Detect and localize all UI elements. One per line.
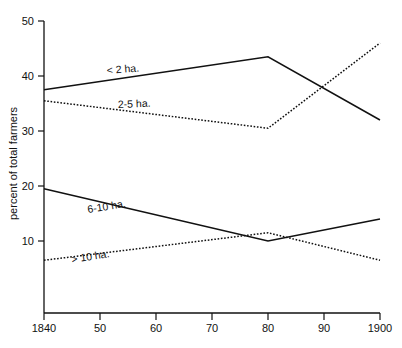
x-axis-tick-labels: 1840 50 60 70 80 90 1900 bbox=[32, 322, 392, 334]
y-tick-label-20: 20 bbox=[22, 180, 34, 192]
y-axis-title: percent of total farmers bbox=[7, 106, 19, 220]
x-tick-label-1880: 80 bbox=[262, 322, 274, 334]
chart-container: 50 40 30 20 10 percent of total farmers … bbox=[0, 0, 402, 348]
x-tick-label-1840: 1840 bbox=[32, 322, 56, 334]
y-axis-tick-labels: 50 40 30 20 10 bbox=[22, 15, 34, 247]
series-label-gt-10-ha: > 10 ha. bbox=[70, 247, 110, 265]
series-label-lt-2-ha: < 2 ha. bbox=[106, 61, 139, 76]
series-lines bbox=[44, 43, 380, 260]
series-line-2-5-ha bbox=[44, 43, 380, 128]
series-line-6-10-ha bbox=[44, 189, 380, 241]
x-tick-label-1890: 90 bbox=[318, 322, 330, 334]
x-tick-label-1870: 70 bbox=[206, 322, 218, 334]
series-inline-labels: < 2 ha. 2-5 ha. 6-10 ha. > 10 ha. bbox=[70, 61, 150, 264]
x-tick-label-1850: 50 bbox=[94, 322, 106, 334]
y-tick-label-40: 40 bbox=[22, 70, 34, 82]
series-line-lt-2-ha bbox=[44, 57, 380, 120]
line-chart-figure: 50 40 30 20 10 percent of total farmers … bbox=[0, 0, 402, 348]
y-tick-label-10: 10 bbox=[22, 235, 34, 247]
y-tick-label-30: 30 bbox=[22, 125, 34, 137]
y-axis-ticks bbox=[38, 21, 44, 241]
y-tick-label-50: 50 bbox=[22, 15, 34, 27]
x-tick-label-1860: 60 bbox=[150, 322, 162, 334]
x-tick-label-1900: 1900 bbox=[368, 322, 392, 334]
series-label-2-5-ha: 2-5 ha. bbox=[118, 97, 151, 110]
x-axis-ticks bbox=[44, 313, 380, 320]
